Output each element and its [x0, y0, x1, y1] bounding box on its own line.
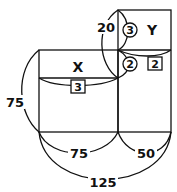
x-box-value: 3: [74, 81, 82, 94]
y-box-value: 2: [151, 58, 159, 71]
mid-circle-value: 2: [126, 58, 134, 71]
label-x: X: [73, 59, 84, 75]
diagram-canvas: 20 75 X 3 Y 3 2 2 75 50 125: [0, 0, 177, 192]
arc-y-sub: [118, 50, 171, 56]
label-bottom-50: 50: [137, 146, 155, 161]
label-left-75: 75: [6, 95, 24, 110]
label-bottom-75: 75: [70, 146, 88, 161]
label-bottom-125: 125: [89, 175, 116, 190]
label-top-20: 20: [97, 20, 115, 35]
arc-left-75: [22, 50, 39, 132]
label-y: Y: [146, 22, 158, 38]
y-circle-value: 3: [126, 24, 134, 37]
